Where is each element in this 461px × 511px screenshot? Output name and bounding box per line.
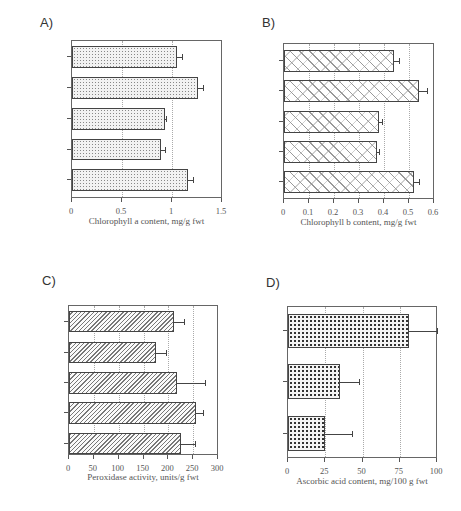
- error-bar-cap: [195, 441, 196, 447]
- y-tick: [283, 330, 287, 331]
- x-tick: [118, 455, 119, 459]
- bar: [72, 169, 188, 191]
- y-tick: [67, 56, 71, 57]
- error-bar: [174, 322, 184, 323]
- x-tick: [287, 458, 288, 462]
- x-tick-label: 0.3: [353, 207, 364, 217]
- bar: [69, 311, 174, 332]
- x-tick-label: 50: [357, 466, 366, 476]
- x-tick: [333, 199, 334, 203]
- bar: [72, 77, 198, 99]
- x-tick: [283, 199, 284, 203]
- bar: [284, 141, 377, 163]
- x-tick: [71, 198, 72, 202]
- y-tick: [67, 87, 71, 88]
- x-tick: [324, 458, 325, 462]
- error-bar: [196, 413, 203, 414]
- bar: [69, 342, 156, 363]
- error-bar-cap: [165, 147, 166, 153]
- x-axis-title: Chlorophyll a content, mg/g fwt: [89, 216, 205, 226]
- error-bar: [409, 331, 437, 332]
- x-tick: [308, 199, 309, 203]
- x-tick: [121, 198, 122, 202]
- x-tick: [167, 455, 168, 459]
- error-bar-cap: [419, 179, 420, 185]
- bar: [284, 111, 379, 133]
- y-tick: [279, 60, 283, 61]
- x-tick: [192, 455, 193, 459]
- error-bar-cap: [184, 319, 185, 325]
- panel-label: C): [42, 273, 56, 288]
- error-bar: [177, 383, 205, 384]
- error-bar-cap: [203, 85, 204, 91]
- error-bar: [340, 382, 359, 383]
- error-bar-cap: [379, 149, 380, 155]
- x-tick-label: 0: [69, 206, 73, 216]
- x-tick-label: 0: [285, 466, 289, 476]
- error-bar: [325, 434, 352, 435]
- x-tick-label: 0.5: [116, 206, 127, 216]
- error-bar: [181, 444, 194, 445]
- x-tick-label: 0.4: [378, 207, 389, 217]
- x-tick-label: 0.5: [403, 207, 414, 217]
- bar: [288, 364, 340, 399]
- y-tick: [283, 433, 287, 434]
- panel-label: D): [266, 275, 280, 290]
- error-bar-cap: [182, 54, 183, 60]
- error-bar: [156, 353, 165, 354]
- error-bar-cap: [203, 410, 204, 416]
- y-tick: [64, 382, 68, 383]
- gridline: [193, 306, 194, 454]
- bar: [288, 314, 409, 348]
- y-tick: [279, 90, 283, 91]
- error-bar-cap: [382, 119, 383, 125]
- bar: [72, 139, 161, 160]
- x-tick-label: 0.1: [303, 207, 314, 217]
- y-tick: [64, 412, 68, 413]
- x-tick: [399, 458, 400, 462]
- bar: [69, 372, 177, 394]
- x-tick-label: 0: [66, 463, 70, 473]
- x-tick: [93, 455, 94, 459]
- x-tick: [171, 198, 172, 202]
- x-tick-label: 25: [320, 466, 329, 476]
- y-tick: [67, 149, 71, 150]
- x-tick-label: 1: [169, 206, 173, 216]
- error-bar-cap: [359, 379, 360, 385]
- error-bar-cap: [352, 431, 353, 437]
- plot-area: [283, 43, 434, 199]
- x-tick: [408, 199, 409, 203]
- error-bar-cap: [427, 88, 428, 94]
- error-bar-cap: [399, 58, 400, 64]
- x-tick: [358, 199, 359, 203]
- bar: [69, 402, 196, 424]
- x-tick-label: 300: [211, 463, 224, 473]
- plot-area: [68, 305, 218, 455]
- y-tick: [279, 151, 283, 152]
- x-tick: [436, 458, 437, 462]
- x-tick-label: 0.2: [328, 207, 339, 217]
- error-bar-cap: [205, 380, 206, 386]
- y-tick: [67, 118, 71, 119]
- y-tick: [64, 352, 68, 353]
- plot-area: [287, 306, 437, 458]
- bar: [284, 50, 394, 72]
- bar: [288, 416, 325, 451]
- y-tick: [283, 381, 287, 382]
- bar: [284, 171, 414, 193]
- error-bar: [419, 91, 427, 92]
- y-tick: [64, 321, 68, 322]
- x-tick: [217, 455, 218, 459]
- bar: [72, 108, 165, 130]
- error-bar-cap: [193, 177, 194, 183]
- x-tick-label: 100: [430, 466, 443, 476]
- x-tick: [383, 199, 384, 203]
- bar: [69, 433, 181, 454]
- x-tick: [68, 455, 69, 459]
- x-tick: [362, 458, 363, 462]
- plot-area: [71, 40, 222, 198]
- panel-label: B): [262, 15, 275, 30]
- bar: [72, 46, 177, 68]
- error-bar-cap: [166, 350, 167, 356]
- x-axis-title: Chlorophyll b content, mg/g fwt: [300, 217, 416, 227]
